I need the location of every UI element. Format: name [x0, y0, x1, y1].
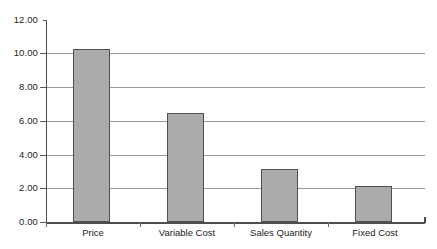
y-axis-line	[46, 20, 47, 223]
x-axis-line	[46, 222, 425, 224]
bar-variable-cost[interactable]	[167, 113, 204, 222]
bar-fixed-cost[interactable]	[355, 186, 392, 222]
bar-chart: 0.00 2.00 4.00 6.00 8.00 10.00 12.00	[0, 0, 437, 249]
x-axis-end-tick	[424, 217, 426, 223]
y-tick-label-0: 0.00	[0, 217, 38, 227]
y-tick-label-12: 12.00	[0, 15, 38, 25]
x-label-sales-quantity: Sales Quantity	[234, 227, 328, 238]
y-tick-label-6: 6.00	[0, 116, 38, 126]
y-tick-label-2: 2.00	[0, 183, 38, 193]
bar-price[interactable]	[73, 49, 110, 222]
x-label-fixed-cost: Fixed Cost	[328, 227, 422, 238]
x-label-price: Price	[46, 227, 140, 238]
x-label-variable-cost: Variable Cost	[140, 227, 234, 238]
y-tick-label-8: 8.00	[0, 82, 38, 92]
y-tick-label-4: 4.00	[0, 150, 38, 160]
bar-sales-quantity[interactable]	[261, 169, 298, 222]
y-axis-top-cap	[43, 20, 47, 21]
y-tick-label-10: 10.00	[0, 48, 38, 58]
